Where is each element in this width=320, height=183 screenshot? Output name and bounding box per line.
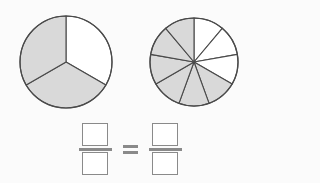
left-denominator-box[interactable]: [82, 152, 108, 175]
left-fraction: [79, 123, 112, 175]
right-numerator-box[interactable]: [152, 123, 178, 146]
right-denominator-box[interactable]: [152, 152, 178, 175]
equals-bar-bottom: [123, 151, 138, 154]
fraction-equation: [0, 118, 260, 180]
left-numerator-box[interactable]: [82, 123, 108, 146]
equals-bar-top: [123, 145, 138, 148]
right-pie-chart: [148, 16, 240, 108]
left-pie-chart: [18, 14, 114, 110]
fraction-worksheet: [0, 0, 260, 183]
left-fraction-bar: [79, 148, 112, 151]
right-fraction-bar: [149, 148, 182, 151]
equals-sign: [123, 145, 138, 154]
right-pie-model: [148, 16, 240, 108]
left-pie-model: [18, 14, 114, 110]
right-fraction: [149, 123, 182, 175]
